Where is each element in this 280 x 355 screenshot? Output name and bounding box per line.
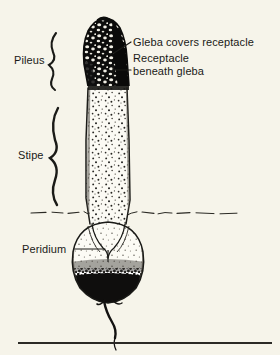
stipe-brace [50,108,58,205]
soil-line [31,212,237,217]
label-receptacle-line-2: beneath gleba [133,65,204,77]
fungus-anatomy-figure: Pileus Stipe Peridium Gleba covers recep… [0,0,280,355]
label-receptacle-line-1: Receptacle [133,52,189,64]
label-stipe: Stipe [18,149,44,162]
label-peridium: Peridium [22,243,66,256]
stipe-shape [86,88,130,224]
receptacle-band [88,86,129,90]
pileus-brace [49,33,56,90]
label-receptacle-beneath-gleba: Receptaclebeneath gleba [133,52,204,77]
label-pileus: Pileus [14,54,45,67]
pileus-cap-shape [80,16,134,90]
label-gleba-covers-receptacle: Gleba covers receptacle [133,36,254,49]
peridium-volva-shape [60,222,160,312]
